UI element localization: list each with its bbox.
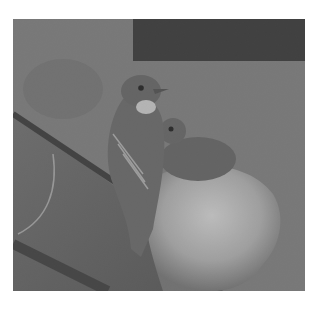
bird-nest-photo	[13, 19, 305, 291]
photo-illustration	[13, 19, 305, 291]
